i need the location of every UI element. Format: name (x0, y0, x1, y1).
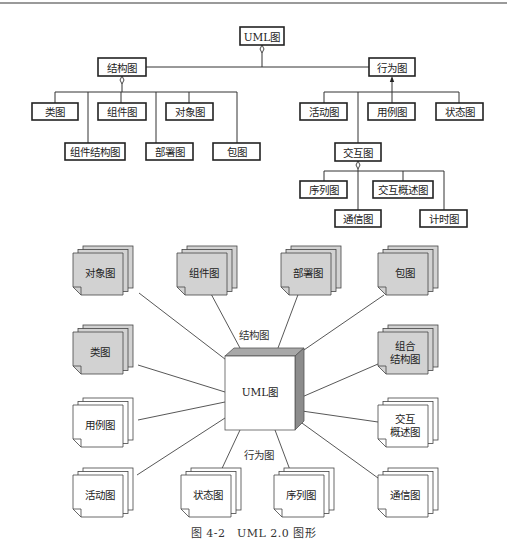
doc-label: 组合 (395, 340, 416, 352)
doc-label: 组件图 (189, 267, 219, 279)
structural-diagram-doc: 组合结构图 (378, 325, 438, 374)
structural-diagram-doc: 组件图 (177, 246, 237, 295)
behavioral-diagram-doc: 活动图 (73, 468, 133, 517)
node-structural-child-label: 组件图 (107, 106, 137, 118)
structural-diagram-doc: 包图 (378, 246, 438, 295)
node-interaction-child: 计时图 (420, 210, 467, 227)
uml-cube: UML图 (225, 348, 304, 430)
spoke-line (295, 364, 378, 400)
uml-overview-diagram: 对象图组件图部署图包图类图组合结构图用例图交互概述图活动图状态图序列图通信图UM… (73, 246, 438, 517)
node-behavioral-child: 用例图 (368, 103, 415, 120)
spoke-line (138, 365, 225, 392)
node-structural-child-label: 类图 (45, 106, 65, 118)
node-behavioral-child-label: 用例图 (377, 106, 407, 118)
node-behavioral-child: 活动图 (300, 103, 347, 120)
uml-hierarchy-tree: UML图结构图行为图交互图类图组件图对象图组件结构图部署图包图活动图用例图状态图… (32, 27, 483, 227)
node-structural-diagram-label: 结构图 (107, 62, 137, 74)
doc-label: 用例图 (85, 419, 115, 431)
node-uml-root: UML图 (240, 27, 284, 45)
spoke-line (301, 295, 384, 352)
node-structural-child: 包图 (213, 143, 260, 160)
doc-label: 对象图 (85, 267, 115, 279)
behavioral-group-label: 行为图 (244, 449, 274, 461)
cube-top-face (225, 348, 304, 356)
behavioral-diagram-doc: 通信图 (378, 468, 438, 517)
node-structural-child: 组件图 (98, 103, 146, 120)
node-interaction-child-label: 序列图 (309, 184, 339, 196)
aggregation-diamond-icon (120, 76, 124, 84)
spoke-line (210, 292, 240, 348)
doc-label: 交互 (395, 413, 415, 425)
doc-label: 包图 (395, 267, 415, 279)
node-behavioral-diagram-label: 行为图 (377, 62, 407, 74)
node-interaction-child: 交互概述图 (373, 181, 433, 198)
doc-label: 序列图 (286, 489, 316, 501)
spoke-line (138, 402, 225, 420)
node-structural-child-label: 包图 (227, 146, 247, 158)
cube-label: UML图 (242, 386, 279, 398)
node-interaction-child-label: 通信图 (343, 213, 373, 225)
node-structural-child-label: 部署图 (155, 146, 185, 158)
node-interaction-diagram-label: 交互图 (343, 147, 373, 159)
node-structural-child: 对象图 (166, 103, 213, 120)
node-interaction-diagram: 交互图 (335, 143, 381, 161)
cube-side-face (295, 348, 304, 430)
doc-label: 部署图 (293, 267, 323, 279)
node-behavioral-child-label: 状态图 (445, 106, 475, 118)
node-behavioral-child: 状态图 (436, 103, 483, 120)
doc-label: 活动图 (85, 489, 115, 501)
structural-diagram-doc: 部署图 (281, 246, 341, 295)
generalization-arrow-icon (390, 76, 394, 82)
behavioral-diagram-doc: 状态图 (181, 468, 241, 517)
doc-label: 状态图 (193, 489, 223, 501)
structural-diagram-doc: 对象图 (73, 246, 133, 295)
node-interaction-child-label: 交互概述图 (378, 184, 428, 196)
node-uml-root-label: UML图 (244, 31, 281, 43)
spoke-line (137, 418, 225, 475)
node-structural-child: 类图 (32, 103, 78, 120)
behavioral-diagram-doc: 交互概述图 (378, 398, 438, 447)
uml-diagram-canvas: UML图结构图行为图交互图类图组件图对象图组件结构图部署图包图活动图用例图状态图… (0, 0, 507, 560)
spoke-line (295, 410, 378, 422)
node-interaction-child: 序列图 (300, 181, 347, 198)
doc-label: 结构图 (390, 353, 420, 365)
structural-diagram-doc: 类图 (73, 325, 133, 374)
node-structural-child: 部署图 (146, 143, 193, 160)
node-structural-child-label: 组件结构图 (70, 146, 120, 158)
doc-label: 概述图 (390, 426, 420, 438)
structural-group-label: 结构图 (239, 329, 269, 341)
doc-label: 类图 (90, 346, 110, 358)
aggregation-diamond-icon (356, 161, 360, 169)
doc-label: 通信图 (390, 489, 420, 501)
spoke-line (139, 293, 234, 366)
node-interaction-child: 通信图 (335, 210, 381, 227)
node-structural-diagram: 结构图 (98, 58, 146, 76)
behavioral-diagram-doc: 序列图 (274, 468, 334, 517)
node-structural-child-label: 对象图 (175, 106, 205, 118)
node-behavioral-child-label: 活动图 (309, 106, 339, 118)
spoke-line (278, 292, 299, 348)
figure-caption: 图 4-2 UML 2.0 图形 (0, 524, 507, 540)
node-interaction-child-label: 计时图 (429, 213, 459, 225)
node-behavioral-diagram: 行为图 (369, 58, 415, 76)
aggregation-diamond-icon (260, 45, 264, 53)
behavioral-diagram-doc: 用例图 (73, 398, 133, 447)
node-structural-child: 组件结构图 (65, 143, 125, 160)
